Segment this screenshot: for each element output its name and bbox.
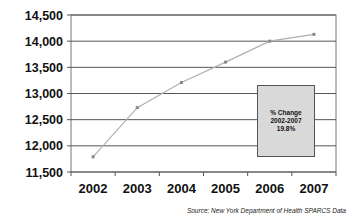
y-tick-label: 13,500 [25,61,63,75]
x-tick-label: 2004 [167,181,197,196]
source-note: Source: New York Department of Health SP… [187,207,346,215]
annotation-value: 19.8% [277,125,295,133]
y-tick-label: 12,000 [25,139,63,153]
data-point-marker [224,61,227,64]
x-tick-label: 2007 [299,181,328,196]
y-axis: 14,50014,00013,50013,00012,50012,00011,5… [25,9,71,180]
y-tick-label: 14,000 [25,35,63,49]
y-tick-label: 13,000 [25,87,63,101]
x-tick-label: 2002 [79,181,108,196]
x-tick-label: 2005 [211,181,240,196]
percent-change-annotation: % Change 2002-2007 19.8% [257,85,315,157]
annotation-title: % Change [270,109,301,117]
x-tick-label: 2003 [123,181,152,196]
annotation-period: 2002-2007 [270,117,301,125]
y-tick-label: 14,500 [25,9,63,23]
x-axis: 200220032004200520062007 [71,172,336,196]
data-point-marker [268,40,271,43]
x-tick-label: 2006 [255,181,284,196]
data-point-marker [180,81,183,84]
y-tick-label: 12,500 [25,113,63,127]
data-point-marker [92,155,95,158]
data-point-marker [312,33,315,36]
data-point-marker [136,106,139,109]
y-tick-label: 11,500 [25,166,63,180]
